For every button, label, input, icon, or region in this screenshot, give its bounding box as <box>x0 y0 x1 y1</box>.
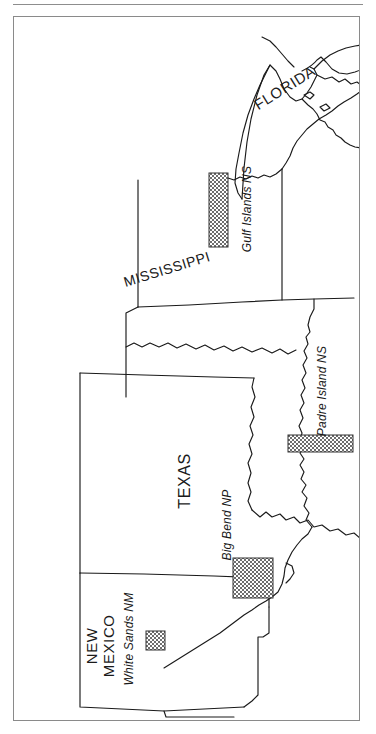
coast-texas-gulf <box>252 510 360 539</box>
island-florida-a <box>304 92 314 99</box>
coast-florida-keys-north <box>317 75 360 85</box>
island-florida-b <box>320 104 330 111</box>
boundary-texas-east <box>248 378 255 510</box>
boundary-gulf-coast-wiggle <box>126 343 296 354</box>
state-outline-north-lobe-left <box>235 65 270 199</box>
coast-florida-west <box>282 91 360 169</box>
boundary-new-mexico-east <box>244 607 269 707</box>
park-marker-big-bend-np[interactable] <box>233 558 273 598</box>
park-marker-gulf-islands-ns[interactable] <box>209 173 228 247</box>
coast-north-edge <box>302 57 360 74</box>
boundary-mexico-edge <box>164 711 234 717</box>
map-graphic <box>14 17 360 721</box>
state-outline-north-lobe-top <box>242 65 317 199</box>
coast-padre-approach <box>300 441 312 527</box>
park-markers <box>146 173 353 650</box>
boundary-mississippi-river-upper <box>302 99 360 148</box>
park-marker-white-sands-nm[interactable] <box>146 631 165 650</box>
header-rule <box>13 4 363 5</box>
boundary-big-bend-notch <box>286 563 294 583</box>
boundary-louisiana-river <box>299 299 314 441</box>
boundary-texas-north <box>80 373 254 378</box>
map-frame: FLORIDA MISSISSIPPI TEXAS NEW MEXICO Gul… <box>13 16 360 721</box>
boundary-horizontal-mid <box>138 298 354 307</box>
island-strip-florida <box>262 37 294 67</box>
park-marker-padre-island-ns[interactable] <box>288 435 353 452</box>
state-outlines <box>80 37 360 717</box>
boundary-mississippi-west <box>126 307 138 397</box>
page-canvas: FLORIDA MISSISSIPPI TEXAS NEW MEXICO Gul… <box>0 0 376 734</box>
